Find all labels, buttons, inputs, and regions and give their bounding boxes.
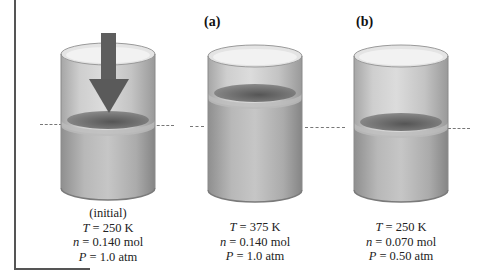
down-arrow-icon: [87, 33, 131, 113]
pressure-line: P = 1.0 atm: [205, 249, 305, 264]
caption-initial: (initial) T = 250 K n = 0.140 mol P = 1.…: [58, 206, 158, 264]
moles-line: n = 0.140 mol: [58, 235, 158, 250]
temperature-line: T = 375 K: [205, 220, 305, 235]
temperature-line: T = 250 K: [351, 220, 451, 235]
pressure-line: P = 0.50 atm: [351, 249, 451, 264]
reference-dashed-line: [190, 126, 204, 127]
frame-left-border: [14, 0, 16, 269]
caption-title: (initial): [58, 206, 158, 221]
moles-line: n = 0.140 mol: [205, 235, 305, 250]
pressure-line: P = 1.0 atm: [58, 250, 158, 265]
panel-label-b: (b): [356, 14, 373, 30]
temperature-line: T = 250 K: [58, 221, 158, 236]
cylinder-b: [351, 42, 451, 204]
frame-bottom-border: [14, 268, 90, 270]
moles-line: n = 0.070 mol: [351, 235, 451, 250]
cylinder-a: [205, 42, 305, 204]
caption-a: T = 375 K n = 0.140 mol P = 1.0 atm: [205, 220, 305, 264]
caption-b: T = 250 K n = 0.070 mol P = 0.50 atm: [351, 220, 451, 264]
panel-label-a: (a): [204, 14, 220, 30]
reference-dashed-line: [448, 128, 470, 129]
reference-dashed-line: [305, 127, 345, 128]
